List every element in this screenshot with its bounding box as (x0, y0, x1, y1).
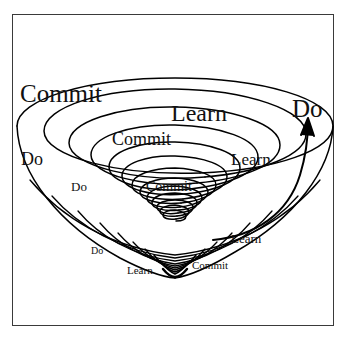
label-do-cycle-3: Do (71, 180, 87, 193)
label-learn-cycle-3: Learn (231, 232, 261, 245)
label-learn-cycle-4: Learn (127, 265, 153, 276)
vortex-diagram (0, 0, 351, 344)
label-do-cycle-1: Do (292, 96, 323, 121)
label-commit-cycle-1: Commit (20, 81, 102, 106)
label-learn-cycle-1: Learn (171, 101, 227, 125)
label-learn-cycle-2: Learn (231, 151, 271, 168)
label-commit-cycle-4: Commit (192, 260, 228, 271)
label-commit-cycle-2: Commit (112, 130, 171, 148)
figure-page: Commit Learn Do Do Commit Learn Do Commi… (0, 0, 351, 344)
label-commit-cycle-3: Commit (146, 180, 192, 194)
label-do-cycle-2: Do (21, 150, 43, 168)
label-do-cycle-4: Do (91, 246, 103, 256)
